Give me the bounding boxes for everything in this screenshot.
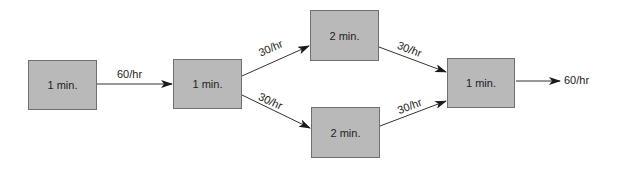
node-step-3-top: 2 min. <box>310 10 379 61</box>
process-flow-diagram: 1 min. 1 min. 2 min. 2 min. 1 min. 60/hr… <box>0 0 618 169</box>
node-step-1: 1 min. <box>28 60 97 110</box>
node-label: 2 min. <box>331 127 361 139</box>
node-label: 1 min. <box>466 77 496 89</box>
node-step-3-bottom: 2 min. <box>311 107 380 158</box>
node-step-2: 1 min. <box>173 59 242 109</box>
edge-label-output: 60/hr <box>564 74 589 86</box>
node-step-4: 1 min. <box>447 58 515 108</box>
edge-label-n1-n2: 60/hr <box>117 68 142 80</box>
node-label: 1 min. <box>193 78 223 90</box>
node-label: 2 min. <box>330 30 360 42</box>
node-label: 1 min. <box>48 79 78 91</box>
